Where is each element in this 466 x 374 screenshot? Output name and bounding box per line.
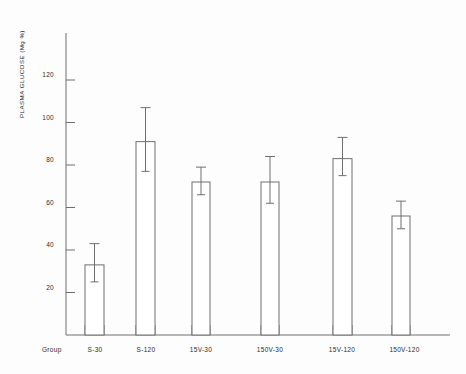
bar-15V-30 xyxy=(192,182,210,335)
bar-150V-120 xyxy=(392,216,410,335)
chart-canvas xyxy=(0,0,466,374)
bars-layer xyxy=(85,108,410,335)
bar-15V-120 xyxy=(333,159,352,335)
bar-150V-30 xyxy=(261,182,279,335)
chart-figure: PLASMA GLUCOSE (Mg %) 20 40 60 80 100 12… xyxy=(0,0,466,374)
